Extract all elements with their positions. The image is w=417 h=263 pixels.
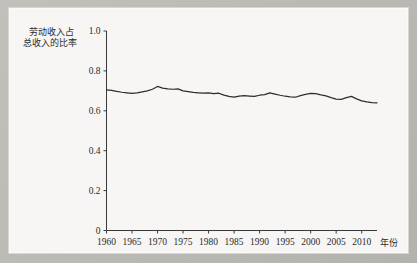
figure-frame: 00.20.40.60.81.0 19601965197019751980198…	[0, 0, 417, 263]
x-tick-label: 1995	[276, 237, 295, 247]
y-tick-label: 0.6	[89, 106, 101, 116]
line-chart: 00.20.40.60.81.0 19601965197019751980198…	[9, 8, 408, 253]
x-tick-label: 1970	[148, 237, 167, 247]
y-tick-label: 0.8	[89, 66, 101, 76]
y-tick-label: 0	[96, 226, 101, 236]
x-tick-label: 1975	[174, 237, 193, 247]
y-tick-label: 1.0	[89, 26, 101, 36]
x-tick-label: 1965	[123, 237, 142, 247]
x-tick-label: 1980	[199, 237, 218, 247]
y-axis-title-line1: 劳动收入占	[29, 26, 74, 37]
y-tick-label: 0.2	[89, 186, 101, 196]
y-axis-title-line2: 总收入的比率	[23, 37, 77, 48]
x-tick-label: 1990	[250, 237, 269, 247]
y-tick-group: 00.20.40.60.81.0	[89, 26, 107, 236]
x-tick-label: 1960	[97, 237, 116, 247]
x-tick-label: 2010	[352, 237, 371, 247]
x-tick-label: 2000	[301, 237, 320, 247]
data-series-line	[107, 86, 378, 102]
x-tick-label: 1985	[225, 237, 244, 247]
x-tick-group: 1960196519701975198019851990199520002005…	[97, 231, 371, 247]
x-tick-label: 2005	[327, 237, 346, 247]
chart-panel: 00.20.40.60.81.0 19601965197019751980198…	[8, 7, 409, 254]
x-axis-unit-label: 年份	[380, 237, 398, 248]
y-tick-label: 0.4	[89, 146, 101, 156]
